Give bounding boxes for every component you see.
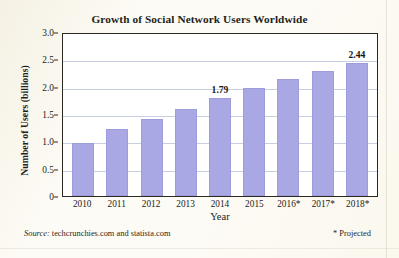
projected-note: * Projected: [333, 229, 371, 238]
plot-area: 1.792.44: [62, 33, 378, 197]
y-tick-mark: [54, 87, 58, 88]
bar-slot: 2.44: [340, 34, 374, 196]
y-tick-mark: [54, 169, 58, 170]
y-tick-label: 1.5: [42, 110, 54, 120]
y-tick-mark: [54, 197, 58, 198]
source-note: Source: techcrunchies.com and statista.c…: [24, 229, 170, 238]
page-edge-bottom: [0, 248, 399, 249]
bar-slot: [66, 34, 100, 196]
bar[interactable]: [312, 71, 334, 196]
y-tick-label: 3.0: [42, 28, 54, 38]
bar[interactable]: [209, 98, 231, 196]
y-tick-label: 1.0: [42, 137, 54, 147]
y-tick-mark: [54, 115, 58, 116]
source-label: Source:: [24, 229, 50, 238]
source-value: techcrunchies.com and statista.com: [50, 229, 171, 238]
bar[interactable]: [141, 119, 163, 196]
bars-container: 1.792.44: [63, 34, 377, 196]
y-tick-mark: [54, 60, 58, 61]
x-axis-title: Year: [62, 211, 378, 222]
bar-slot: [100, 34, 134, 196]
chart-title: Growth of Social Network Users Worldwide: [0, 13, 399, 25]
page-edge-right: [386, 0, 387, 258]
bar[interactable]: [175, 109, 197, 196]
bar-value-label: 2.44: [348, 49, 365, 60]
bar-slot: [237, 34, 271, 196]
y-tick-label: 0.5: [42, 165, 54, 175]
bar[interactable]: [243, 88, 265, 196]
bar-slot: 1.79: [203, 34, 237, 196]
bar-value-label: 1.79: [212, 84, 229, 95]
bar[interactable]: [277, 79, 299, 196]
bar-slot: [306, 34, 340, 196]
bar[interactable]: [106, 129, 128, 196]
y-tick-label: 2.0: [42, 83, 54, 93]
bar-slot: [271, 34, 305, 196]
bar[interactable]: [346, 63, 368, 196]
bar-slot: [169, 34, 203, 196]
bar[interactable]: [72, 143, 94, 196]
y-tick-mark: [54, 33, 58, 34]
y-tick-label: 2.5: [42, 55, 54, 65]
y-axis-tick-labels: 00.51.01.52.02.53.0: [24, 33, 58, 197]
bar-slot: [134, 34, 168, 196]
y-tick-mark: [54, 142, 58, 143]
